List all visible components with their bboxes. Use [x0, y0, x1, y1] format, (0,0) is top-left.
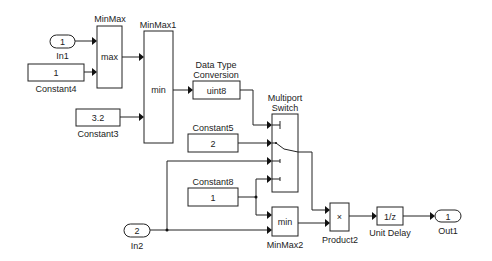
unit-delay-block[interactable]: 1/z Unit Delay [369, 207, 411, 238]
unit-delay-function: 1/z [384, 212, 397, 222]
wire-switch-product2[interactable] [298, 152, 325, 210]
constant5-label: Constant5 [192, 123, 233, 133]
arrowhead [267, 226, 272, 234]
constant8-value: 1 [210, 193, 215, 203]
inport-in2-label: In2 [131, 241, 144, 251]
constant5-block[interactable]: Constant5 2 [188, 123, 238, 152]
arrowhead [267, 121, 272, 129]
inport-in2-number: 2 [134, 226, 139, 236]
arrowhead [139, 113, 144, 121]
constant4-label: Constant4 [35, 84, 76, 94]
arrowhead [92, 68, 97, 76]
minmax-label: MinMax [94, 14, 126, 24]
inport-in1-number: 1 [60, 37, 65, 47]
dtc-label-line1: Data Type [196, 60, 237, 70]
data-type-conversion-block[interactable]: Data Type Conversion uint8 [193, 60, 240, 99]
arrowhead [372, 212, 377, 220]
signal-lines [75, 41, 430, 230]
minmax-block[interactable]: MinMax max [94, 14, 126, 88]
constant5-value: 2 [210, 139, 215, 149]
branch-point-in2 [166, 229, 169, 232]
inport-in1-label: In1 [56, 51, 69, 61]
arrowheads [92, 37, 435, 234]
outport-out1-number: 1 [445, 212, 450, 222]
minmax2-function: min [278, 217, 293, 227]
inport-in1[interactable]: 1 In1 [50, 35, 75, 61]
wire-dtc-switch[interactable] [240, 90, 267, 125]
minmax-function: max [101, 52, 119, 62]
constant4-value: 1 [53, 68, 58, 78]
product2-operator-icon: × [337, 212, 342, 222]
minmax2-block[interactable]: min MinMax2 [267, 207, 304, 250]
arrowhead [267, 139, 272, 147]
inport-in2[interactable]: 2 In2 [124, 224, 150, 251]
multiport-switch-block[interactable]: Multiport Switch [268, 93, 303, 192]
branch-point-constant8 [255, 196, 258, 199]
wire-constant8-minmax2[interactable] [256, 197, 267, 215]
dtc-type: uint8 [207, 86, 227, 96]
constant3-block[interactable]: 3.2 Constant3 [76, 109, 120, 139]
wire-constant8-switch[interactable] [256, 179, 267, 197]
constant3-label: Constant3 [77, 129, 118, 139]
switch-label-line1: Multiport [268, 93, 303, 103]
arrowhead [325, 219, 330, 227]
unit-delay-label: Unit Delay [369, 228, 411, 238]
constant8-label: Constant8 [192, 177, 233, 187]
minmax2-label: MinMax2 [267, 240, 304, 250]
minmax1-function: min [151, 85, 166, 95]
outport-out1-label: Out1 [438, 226, 458, 236]
outport-out1[interactable]: 1 Out1 [435, 210, 461, 236]
arrowhead [92, 37, 97, 45]
switch-shape[interactable] [272, 114, 298, 192]
minmax1-label: MinMax1 [140, 20, 177, 30]
arrowhead [188, 86, 193, 94]
constant8-block[interactable]: Constant8 1 [188, 177, 238, 206]
minmax1-block[interactable]: MinMax1 min [140, 20, 177, 143]
switch-label-line2: Switch [272, 103, 299, 113]
arrowhead [430, 212, 435, 220]
dtc-label-line2: Conversion [193, 70, 239, 80]
product2-label: Product2 [322, 235, 358, 245]
arrowhead [267, 175, 272, 183]
constant4-block[interactable]: 1 Constant4 [28, 64, 84, 94]
arrowhead [139, 53, 144, 61]
simulink-diagram: 1 In1 1 Constant4 MinMax max MinMax1 min… [0, 0, 492, 261]
arrowhead [325, 206, 330, 214]
arrowhead [267, 157, 272, 165]
constant3-value: 3.2 [92, 113, 105, 123]
arrowhead [267, 211, 272, 219]
